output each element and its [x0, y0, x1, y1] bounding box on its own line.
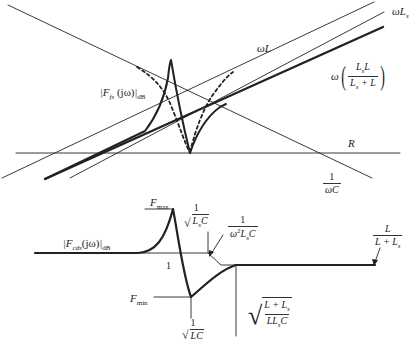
parallel-inductance-line [45, 27, 383, 179]
parallel-inductance-label: ω ( LsL Ls + L ) [331, 60, 387, 92]
fs-response-label: |Ffs (jω)|dB [100, 87, 145, 101]
series-resonance-label: 1 √LsC [184, 203, 209, 229]
cds-response-label: |Fcds(jω)|dB [63, 238, 110, 252]
omega-l-label: ωL [257, 43, 271, 54]
unity-label: 1 [166, 261, 171, 271]
parallel-resonance-label: √ L + Ls LLsC [248, 297, 292, 329]
inv-omega-c-label: 1 ωC [323, 172, 341, 195]
asymptote-label: 1 ω2LsC [228, 215, 258, 242]
omega-ls-label: ωLs [392, 6, 409, 20]
fmin-label: Fmin [130, 293, 148, 307]
asymptote-arrow-shaft [211, 235, 223, 254]
r-label: R [348, 138, 355, 149]
high-frequency-ratio-label: L L + Ls [373, 224, 402, 250]
fmax-label: Fmax [150, 197, 169, 211]
lc-resonance-label: 1 √LC [182, 318, 204, 341]
fs-response-curve [45, 60, 226, 179]
impedance-and-filter-response-diagram [0, 0, 415, 350]
